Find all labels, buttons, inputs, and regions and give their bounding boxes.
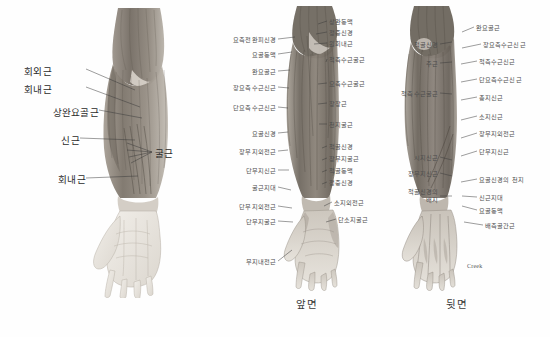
label-front-right-8: 장무지굴근 (329, 155, 360, 163)
label-front-left-0: 요측전완피신경 (233, 36, 276, 44)
label-front-right-10: 정중신경 (329, 179, 353, 187)
label-front-right-5: 장장근 (329, 100, 347, 108)
label-front-right-0: 상완동맥 (329, 18, 353, 26)
label-back-right-11: 배측골간근 (485, 222, 516, 230)
label-back-right-9: 신근지대 (479, 194, 503, 202)
label-front-left-9: 단무지외전근 (239, 203, 276, 211)
caption-back: 뒷면 (446, 296, 467, 311)
label-back-right-2: 척측수근신근 (479, 58, 516, 66)
label-back-right-5: 소지신근 (479, 113, 503, 121)
label-front-right-3: 척측수근굴근 (329, 56, 366, 64)
label-front-left-3: 장요측수근신근 (233, 84, 276, 92)
artist-signature: Creek (467, 263, 482, 269)
label-front-right-1: 정중신경 (329, 29, 353, 37)
label-back-left-0: 척골신경 (414, 41, 438, 49)
label-back-left-5: 척골신경의 (408, 188, 439, 196)
label-back-right-4: 총지신근 (479, 94, 503, 102)
label-back-right-6: 장무지외전근 (479, 130, 516, 138)
label-front-left-7: 단무지신근 (246, 167, 277, 175)
label-back-right-7: 단무지신근 (479, 148, 510, 156)
label-front-left-1: 요골동맥 (252, 51, 276, 59)
label-front-right-2: 원회내근 (329, 40, 353, 48)
label-front-right-6: 천지굴근 (329, 121, 353, 129)
label-front-left-8: 굴근지대 (252, 184, 276, 192)
label-overview-2: 상완요골근 (53, 105, 100, 119)
label-front-right-7: 척골신경 (329, 143, 353, 151)
label-back-right-1: 장요측수근신근 (483, 41, 526, 49)
label-back-left-1: 주근 (426, 60, 438, 68)
label-front-left-5: 요골신경 (252, 130, 276, 138)
label-overview-0: 회외근 (24, 64, 52, 78)
label-back-right-0: 완요골근 (476, 24, 500, 32)
label-back-left-3: 시지신근 (414, 154, 438, 162)
label-back-left-2: 척측수근굴근 (401, 90, 438, 98)
label-back-left-4: 장무지신근 (408, 170, 439, 178)
caption-front: 앞면 (296, 296, 317, 311)
label-front-right-12: 단소지굴근 (338, 216, 369, 224)
label-back-right-10: 요골동맥 (479, 207, 503, 215)
overview-arm-illustration (80, 8, 210, 298)
label-front-left-2: 완요골근 (252, 68, 276, 76)
label-front-right-4: 요측수근굴근 (329, 80, 366, 88)
label-back-right-8: 요골신경의 천지 (479, 176, 524, 184)
label-front-left-4: 단요측수근신근 (233, 104, 276, 112)
label-front-right-9: 척골동맥 (329, 167, 353, 175)
label-overview-5: 굴근 (155, 146, 174, 160)
anatomy-figure: 회외근 회내근 상완요골근 신근 회내근 굴근 요측전완피신경 요골동맥 완요골… (0, 0, 550, 337)
label-back-left-6: 배지 (426, 196, 438, 204)
label-back-right-3: 단요측수근신근 (479, 76, 522, 84)
label-front-left-10: 단무지굴근 (246, 218, 277, 226)
back-view-illustration (400, 6, 462, 291)
label-front-right-11: 소지외전근 (334, 199, 365, 207)
label-front-left-11: 무지내전근 (246, 258, 277, 266)
label-overview-4: 회내근 (58, 172, 86, 186)
label-front-left-6: 장무지외전근 (239, 148, 276, 156)
label-overview-1: 회내근 (24, 82, 52, 96)
label-overview-3: 신근 (61, 133, 80, 147)
